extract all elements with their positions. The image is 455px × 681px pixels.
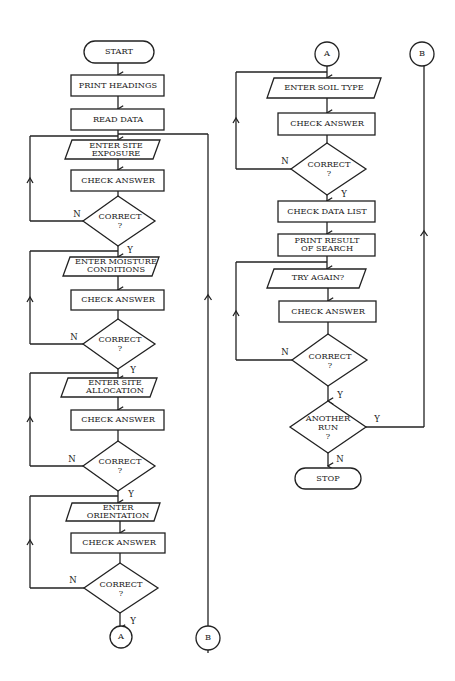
svg-text:Y: Y: [340, 189, 347, 199]
svg-text:ORIENTATION: ORIENTATION: [87, 510, 149, 520]
connector-b-out: B: [410, 42, 434, 66]
step-orientation: ENTER ORIENTATION CHECK ANSWER CORRECT ?…: [27, 496, 165, 628]
svg-text:ENTER SOIL TYPE: ENTER SOIL TYPE: [284, 82, 363, 92]
svg-text:EXPOSURE: EXPOSURE: [92, 148, 141, 158]
svg-text:N: N: [281, 156, 289, 166]
svg-text:B: B: [419, 48, 425, 58]
svg-text:N: N: [281, 347, 289, 357]
svg-text:N: N: [336, 454, 344, 464]
svg-text:Y: Y: [127, 489, 134, 499]
svg-text:CHECK ANSWER: CHECK ANSWER: [81, 175, 155, 185]
svg-text:CHECK ANSWER: CHECK ANSWER: [81, 294, 155, 304]
svg-text:N: N: [70, 332, 78, 342]
svg-text:N: N: [68, 454, 76, 464]
svg-text:?: ?: [327, 168, 331, 178]
svg-text:?: ?: [118, 343, 122, 353]
step-site-exposure: ENTER SITE EXPOSURE CHECK ANSWER CORRECT…: [27, 136, 164, 257]
print-result-box: PRINT RESULT OF SEARCH: [278, 234, 375, 256]
connector-a-in: A: [315, 42, 339, 66]
svg-text:STOP: STOP: [316, 473, 340, 483]
svg-text:N: N: [73, 209, 81, 219]
svg-text:CHECK ANSWER: CHECK ANSWER: [82, 537, 156, 547]
print-headings-box: PRINT HEADINGS: [71, 75, 164, 96]
svg-text:READ DATA: READ DATA: [93, 114, 143, 124]
svg-text:A: A: [323, 48, 330, 58]
svg-text:N: N: [69, 575, 77, 585]
check-data-list-box: CHECK DATA LIST: [278, 201, 375, 222]
svg-text:Y: Y: [126, 245, 133, 255]
read-data-box: READ DATA: [71, 109, 164, 130]
connector-a-out: A: [110, 626, 132, 648]
svg-text:CONDITIONS: CONDITIONS: [87, 264, 146, 274]
svg-text:Y: Y: [373, 414, 380, 424]
step-moisture-conditions: ENTER MOISTURE CONDITIONS CHECK ANSWER C…: [27, 251, 164, 379]
flowchart: START PRINT HEADINGS READ DATA ENTER SIT…: [0, 0, 455, 681]
svg-text:A: A: [117, 631, 124, 641]
svg-text:OF SEARCH: OF SEARCH: [301, 243, 353, 253]
step-try-again: TRY AGAIN? CHECK ANSWER CORRECT ? N Y: [233, 262, 376, 401]
svg-text:CHECK ANSWER: CHECK ANSWER: [291, 306, 365, 316]
step-site-allocation: ENTER SITE ALLOCATION CHECK ANSWER CORRE…: [27, 373, 164, 503]
svg-text:?: ?: [326, 431, 330, 441]
svg-text:CHECK ANSWER: CHECK ANSWER: [290, 118, 364, 128]
stop-terminal: STOP: [295, 468, 361, 489]
svg-text:?: ?: [118, 465, 122, 475]
svg-text:?: ?: [328, 360, 332, 370]
svg-text:?: ?: [119, 588, 123, 598]
svg-text:Y: Y: [129, 365, 136, 375]
svg-text:TRY AGAIN?: TRY AGAIN?: [292, 272, 345, 282]
svg-text:B: B: [205, 632, 211, 642]
svg-text:CHECK DATA LIST: CHECK DATA LIST: [287, 206, 367, 216]
svg-text:CHECK ANSWER: CHECK ANSWER: [81, 414, 155, 424]
svg-text:PRINT HEADINGS: PRINT HEADINGS: [79, 80, 158, 90]
svg-text:ALLOCATION: ALLOCATION: [85, 385, 144, 395]
step-soil-type: ENTER SOIL TYPE CHECK ANSWER CORRECT ? N…: [233, 72, 381, 201]
start-terminal: START: [84, 41, 154, 63]
connector-b-in: B: [196, 626, 220, 650]
svg-text:START: START: [105, 46, 134, 56]
svg-text:Y: Y: [336, 390, 343, 400]
svg-text:?: ?: [118, 220, 122, 230]
svg-text:Y: Y: [129, 616, 136, 626]
